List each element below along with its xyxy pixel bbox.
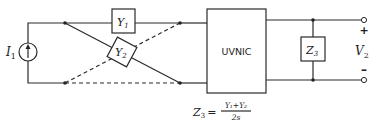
output-voltage-label: V2 <box>355 44 369 60</box>
circuit-diagram: I1 Y1 Y2 UVNIC Z3 + – V2 Z3= Y₁+Y₂ 2 <box>0 0 371 131</box>
current-source-i1 <box>19 43 37 61</box>
svg-text:Z3=: Z3= <box>192 106 216 120</box>
load-z3: Z3 <box>301 37 325 61</box>
uvnic-block: UVNIC <box>207 9 266 93</box>
minus-sign: – <box>361 63 367 77</box>
source-label: I1 <box>5 45 16 61</box>
svg-text:UVNIC: UVNIC <box>222 46 252 57</box>
equation: Z3= Y₁+Y₂ 2s <box>192 101 251 122</box>
equation-denominator: 2s <box>231 113 241 122</box>
admittance-y1: Y1 <box>112 9 135 33</box>
plus-sign: + <box>359 24 368 37</box>
equation-numerator: Y₁+Y₂ <box>225 101 247 110</box>
